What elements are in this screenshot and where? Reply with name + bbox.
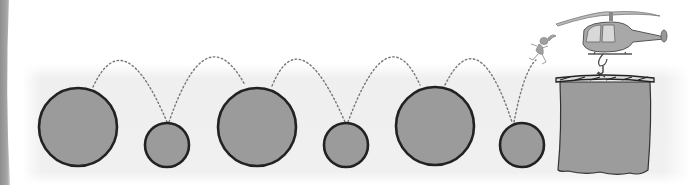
small-circle-2 [324,123,368,167]
large-circle-3 [396,87,474,165]
large-circle-2 [218,88,296,166]
small-circle-3 [500,123,544,167]
illustration-canvas [0,0,700,185]
left-edge-strip [0,0,10,185]
jumping-figure-icon [529,35,556,64]
bucket-icon [556,72,654,174]
large-circle-1 [39,88,117,166]
small-circle-1 [145,123,189,167]
